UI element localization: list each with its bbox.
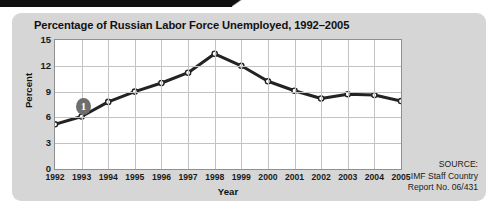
x-tick-1993: 1993 [67,172,97,182]
source-line-3: Report No. 06/431 [386,182,478,194]
source-line-1: SOURCE: [386,159,478,171]
y-tick-15: 15 [21,34,51,45]
chart-figure-panel: Percentage of Russian Labor Force Unempl… [12,13,486,201]
x-tick-2000: 2000 [253,172,283,182]
gridline-horizontal [55,66,401,67]
source-line-2: IMF Staff Country [386,171,478,183]
y-tick-12: 12 [21,59,51,70]
x-axis-label: Year [54,186,402,197]
decorative-top-bar [0,0,232,7]
y-tick-9: 9 [21,85,51,96]
plot-area: 1 [54,39,402,170]
x-tick-1999: 1999 [226,172,256,182]
data-point-1992 [55,122,58,127]
gridline-vertical [241,40,242,169]
gridline-vertical [161,40,162,169]
x-tick-1998: 1998 [200,172,230,182]
gridline-vertical [135,40,136,169]
y-tick-6: 6 [21,111,51,122]
y-axis-tick-labels: 03691215 [18,39,51,170]
x-tick-1992: 1992 [40,172,70,182]
data-point-2005 [398,98,401,103]
gridline-horizontal [55,117,401,118]
x-tick-2003: 2003 [333,172,363,182]
x-tick-1994: 1994 [93,172,123,182]
x-tick-2004: 2004 [359,172,389,182]
gridline-vertical [215,40,216,169]
x-tick-1996: 1996 [146,172,176,182]
series-polyline [55,54,401,125]
gridline-vertical [268,40,269,169]
gridline-horizontal [55,143,401,144]
decorative-top-bar-taper [232,0,242,7]
source-note: SOURCE: IMF Staff Country Report No. 06/… [386,159,478,194]
y-tick-3: 3 [21,137,51,148]
series-markers [55,51,401,127]
x-tick-2002: 2002 [306,172,336,182]
x-tick-1997: 1997 [173,172,203,182]
x-tick-2001: 2001 [280,172,310,182]
gridline-vertical [188,40,189,169]
gridline-vertical [374,40,375,169]
gridline-vertical [321,40,322,169]
line-series-unemployment [55,40,401,169]
gridline-horizontal [55,92,401,93]
chart-title: Percentage of Russian Labor Force Unempl… [34,19,349,31]
gridline-vertical [108,40,109,169]
gridline-vertical [348,40,349,169]
annotation-badge-1: 1 [76,98,91,115]
x-tick-1995: 1995 [120,172,150,182]
gridline-vertical [295,40,296,169]
x-axis-tick-labels: 1992199319941995199619971998199920002001… [54,172,402,186]
